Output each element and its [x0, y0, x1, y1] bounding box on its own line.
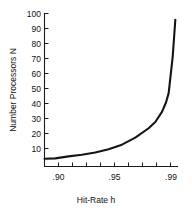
y-axis-title: Number Processors N	[8, 48, 18, 132]
y-tick-label-50: 50	[32, 84, 42, 94]
y-tick-label-70: 70	[32, 54, 42, 64]
chart-figure: 100 90 80 70 60 50 40 30 20 10 .90 .95 .…	[0, 0, 192, 216]
x-tick-label-99: .99	[165, 172, 177, 182]
y-tick-label-60: 60	[32, 69, 42, 79]
y-tick-label-10: 10	[32, 144, 42, 154]
y-tick-label-80: 80	[32, 39, 42, 49]
line-chart: 100 90 80 70 60 50 40 30 20 10 .90 .95 .…	[0, 0, 192, 216]
x-axis-title: Hit-Rate h	[77, 195, 116, 205]
y-tick-label-20: 20	[32, 129, 42, 139]
x-axis-tick-labels: .90 .95 .99	[53, 172, 178, 182]
x-axis-ticks	[59, 163, 171, 167]
x-tick-label-95: .95	[109, 172, 121, 182]
data-line-number-processors	[45, 20, 176, 159]
y-tick-label-90: 90	[32, 24, 42, 34]
y-tick-label-40: 40	[32, 99, 42, 109]
y-tick-label-30: 30	[32, 114, 42, 124]
y-axis-tick-labels: 100 90 80 70 60 50 40 30 20 10	[27, 9, 41, 154]
y-tick-label-100: 100	[27, 9, 41, 19]
y-axis-ticks	[45, 14, 49, 149]
x-tick-label-90: .90	[53, 172, 65, 182]
